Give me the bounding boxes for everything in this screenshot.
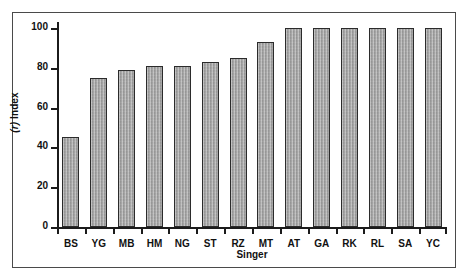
bar-at xyxy=(285,28,302,227)
bar-mt xyxy=(257,42,274,227)
chart-figure: (r) Index Singer 020406080100 BSYGMBHMNG… xyxy=(0,0,466,280)
y-axis-title-plain: Index xyxy=(9,92,20,122)
bar-rz xyxy=(230,58,247,227)
x-tick-label: ST xyxy=(196,238,224,249)
x-tick-mark xyxy=(224,228,226,234)
bars-layer xyxy=(57,22,447,228)
x-tick-label: RZ xyxy=(224,238,252,249)
bar-sa xyxy=(397,28,414,227)
y-tick-label: 40 xyxy=(37,140,48,151)
x-tick-mark xyxy=(308,228,310,234)
bar-st xyxy=(202,62,219,227)
x-tick-label: YC xyxy=(419,238,447,249)
x-tick-label: AT xyxy=(280,238,308,249)
bar-ga xyxy=(313,28,330,227)
x-axis-title: Singer xyxy=(57,249,447,260)
x-tick-mark xyxy=(363,228,365,234)
x-tick-mark xyxy=(57,228,59,234)
plot-area: 020406080100 BSYGMBHMNGSTRZMTATGARKRLSAY… xyxy=(57,22,447,228)
bar-bs xyxy=(62,137,79,227)
bar-mb xyxy=(118,70,135,227)
bar-rl xyxy=(369,28,386,227)
y-axis-title: (r) Index xyxy=(9,68,20,158)
x-tick-mark xyxy=(445,228,447,234)
x-tick-label: BS xyxy=(57,238,85,249)
y-tick-label: 0 xyxy=(42,220,48,231)
bar-ng xyxy=(174,66,191,227)
x-tick-label: NG xyxy=(168,238,196,249)
bar-hm xyxy=(146,66,163,227)
y-tick-label: 100 xyxy=(31,21,48,32)
x-tick-mark xyxy=(419,228,421,234)
y-tick-label: 20 xyxy=(37,180,48,191)
bar-yc xyxy=(425,28,442,227)
x-tick-label: RL xyxy=(363,238,391,249)
x-tick-label: MB xyxy=(113,238,141,249)
y-tick-label: 80 xyxy=(37,61,48,72)
bar-rk xyxy=(341,28,358,227)
x-tick-mark xyxy=(252,228,254,234)
x-tick-label: GA xyxy=(308,238,336,249)
x-tick-mark xyxy=(168,228,170,234)
x-tick-mark xyxy=(85,228,87,234)
bar-yg xyxy=(90,78,107,227)
x-tick-mark xyxy=(141,228,143,234)
x-tick-mark xyxy=(391,228,393,234)
x-tick-label: HM xyxy=(141,238,169,249)
x-tick-label: RK xyxy=(336,238,364,249)
x-tick-label: MT xyxy=(252,238,280,249)
x-tick-mark xyxy=(336,228,338,234)
y-axis-title-italic: (r) xyxy=(9,122,20,133)
x-tick-mark xyxy=(113,228,115,234)
y-tick-label: 60 xyxy=(37,101,48,112)
x-tick-mark xyxy=(196,228,198,234)
x-tick-label: SA xyxy=(391,238,419,249)
x-tick-label: YG xyxy=(85,238,113,249)
x-tick-mark xyxy=(280,228,282,234)
